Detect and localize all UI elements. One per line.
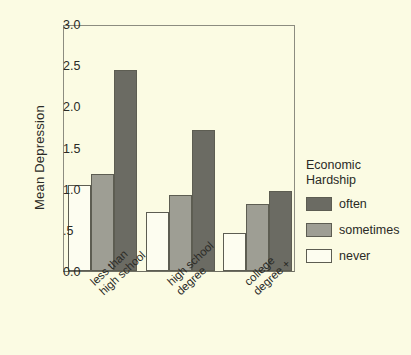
legend-swatch-never: [306, 249, 332, 263]
y-axis-tick-label: 3.0: [63, 19, 83, 32]
legend-title: Economic Hardship: [306, 158, 410, 187]
legend-title-line-2: Hardship: [306, 173, 410, 188]
legend-label-often: often: [339, 197, 367, 211]
bar-often-1: [114, 70, 137, 271]
bars-layer: [64, 26, 294, 271]
bar-chart: Mean Depression 0.0.51.01.52.02.53.0 les…: [0, 0, 411, 355]
legend-swatch-often: [306, 197, 332, 211]
legend-item-never[interactable]: never: [306, 249, 410, 263]
legend-item-sometimes[interactable]: sometimes: [306, 223, 410, 237]
y-axis-tick-label: .5: [63, 225, 76, 238]
legend-swatch-sometimes: [306, 223, 332, 237]
legend-title-line-1: Economic: [306, 158, 410, 173]
legend-item-often[interactable]: often: [306, 197, 410, 211]
bar-never-3: [223, 233, 246, 271]
y-axis-tick-label: 2.0: [63, 101, 83, 114]
y-axis-tick-label: 1.5: [63, 142, 83, 155]
y-axis-tick-label: 1.0: [63, 183, 83, 196]
plot-area: [63, 25, 295, 272]
legend-items: oftensometimesnever: [306, 197, 410, 263]
legend-label-sometimes: sometimes: [339, 223, 399, 237]
y-axis-tick-label: 2.5: [63, 60, 83, 73]
y-axis-title: Mean Depression: [32, 73, 47, 243]
legend: Economic Hardship oftensometimesnever: [306, 158, 410, 275]
legend-label-never: never: [339, 249, 370, 263]
y-axis-tick-label: 0.0: [63, 266, 83, 279]
bar-never-2: [146, 212, 169, 271]
